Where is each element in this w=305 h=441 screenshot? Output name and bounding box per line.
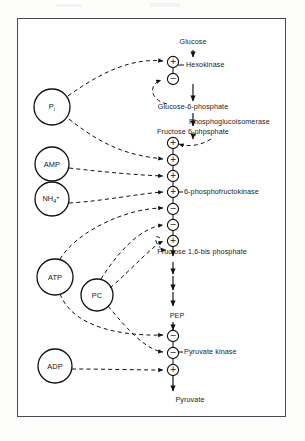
metabolite-glucose: Glucose xyxy=(179,38,206,46)
effector-label-atp: ATP xyxy=(48,273,62,282)
link-pc-pk xyxy=(108,306,163,352)
enzyme-6-phosphofructokinase: 6-phosphofructokinase xyxy=(184,188,259,196)
link-amp-pfk xyxy=(69,168,163,176)
link-pc-pfk-minus xyxy=(101,225,163,279)
enzyme-pyruvate-kinase: Pyruvate kinase xyxy=(184,348,237,356)
effector-text-atp: ATP xyxy=(48,273,62,282)
effector-label-pc: PC xyxy=(92,291,102,300)
metabolite-pep: PEP xyxy=(170,312,185,320)
effector-label-amp: AMP xyxy=(44,160,60,169)
link-pc-pfk-plus xyxy=(110,241,163,288)
pathway-canvas xyxy=(0,0,305,441)
enzyme-phosphoglucoisomerase: Phosphoglucoisomerase xyxy=(189,118,270,126)
metabolite-glucose-6-phosphate: Glucose-6-phosphate xyxy=(158,103,229,111)
effector-sup-nh4: + xyxy=(56,194,59,200)
link-adp-pk xyxy=(72,369,163,370)
link-pi-pfk xyxy=(69,119,163,159)
link-atp-pfk-minus xyxy=(60,208,163,259)
effector-label-nh4: NH4+ xyxy=(42,194,59,204)
effector-text-nh4: NH xyxy=(42,194,53,203)
effector-sub-pi: i xyxy=(54,106,55,112)
figure-page: Glucose Glucose-6-phosphate Fructose 6-p… xyxy=(0,0,305,441)
link-nh4-pfk xyxy=(69,192,163,203)
metabolite-fructose-1-6-bis-phosphate: Fructose 1,6-bis phosphate xyxy=(157,248,247,256)
effector-label-adp: ADP xyxy=(47,362,63,371)
effector-text-amp: AMP xyxy=(44,160,60,169)
effector-text-adp: ADP xyxy=(47,362,63,371)
link-pi-hexokinase xyxy=(68,61,163,96)
metabolite-pyruvate: Pyruvate xyxy=(175,396,204,404)
enzyme-hexokinase: Hexokinase xyxy=(186,61,225,69)
effector-text-pc: PC xyxy=(92,291,102,300)
link-f6p-pfk-feedback xyxy=(179,139,211,146)
metabolite-fructose-6-phosphate: Fructose 6-phpsphate xyxy=(157,128,229,136)
effector-label-pi: Pi xyxy=(49,102,55,112)
link-g6p-hexokinase-feedback xyxy=(153,80,167,104)
effector-circles xyxy=(34,89,113,383)
